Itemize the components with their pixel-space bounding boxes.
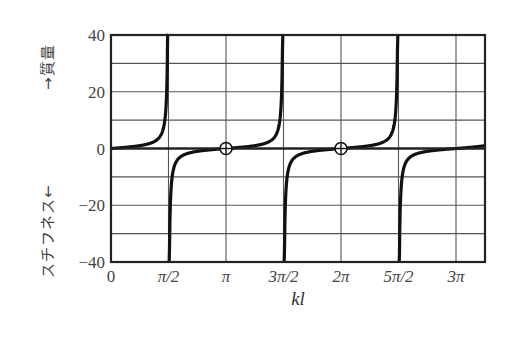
x-tick-label: 3π — [446, 267, 465, 286]
chart-canvas: 40200−20−40 0π/2π3π/22π5π/23π kl — [0, 0, 512, 347]
x-tick-label: 2π — [332, 267, 350, 286]
curve-segment — [399, 146, 485, 262]
x-tick-label: π — [222, 267, 231, 286]
x-tick-label: π/2 — [158, 267, 180, 286]
circle-plus-marker — [335, 143, 347, 155]
x-tick-label: 5π/2 — [383, 267, 414, 286]
x-axis-label: kl — [291, 288, 305, 309]
y-tick-label: 20 — [88, 83, 105, 102]
y-axis-label-mass: →質量 — [36, 44, 57, 90]
y-tick-label: 0 — [97, 140, 106, 159]
x-tick-label: 0 — [107, 267, 116, 286]
y-tick-label: 40 — [88, 26, 105, 45]
x-tick-label: 3π/2 — [267, 267, 299, 286]
y-axis-label-stiffness: スチフネス← — [36, 184, 57, 278]
y-tick-labels: 40200−20−40 — [78, 26, 105, 272]
circle-plus-marker — [220, 143, 232, 155]
x-tick-labels: 0π/2π3π/22π5π/23π — [107, 267, 465, 286]
y-tick-label: −40 — [78, 253, 105, 272]
y-tick-label: −20 — [78, 196, 105, 215]
